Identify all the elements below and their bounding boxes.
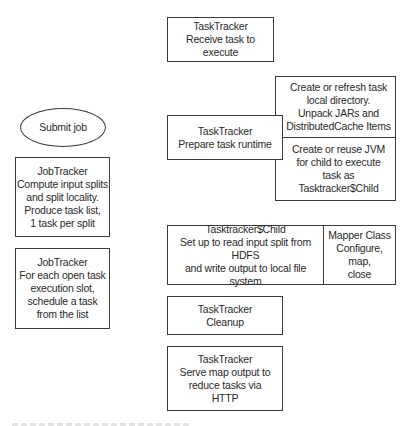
prepare-details-directory-cell: Create or refresh task local directory. … [276, 77, 395, 138]
tasktracker-prepare-text: TaskTracker Prepare task runtime [178, 125, 271, 151]
submit-job-label: Submit job [39, 121, 87, 134]
prepare-details-jvm-text: Create or reuse JVM for child to execute… [292, 143, 385, 195]
tasktracker-cleanup-node: TaskTracker Cleanup [167, 296, 283, 335]
tasktracker-child-main-cell: Tasktracker$Child Set up to read input s… [168, 226, 324, 284]
prepare-details-directory-text: Create or refresh task local directory. … [286, 81, 391, 133]
mapper-class-cell: Mapper Class Configure, map, close [324, 226, 395, 284]
submit-job-node: Submit job [20, 108, 106, 147]
tasktracker-serve-text: TaskTracker Serve map output to reduce t… [180, 353, 271, 405]
tasktracker-child-node: Tasktracker$Child Set up to read input s… [167, 225, 396, 285]
tasktracker-prepare-node: TaskTracker Prepare task runtime [167, 115, 283, 160]
jobtracker-compute-splits-text: JobTracker Compute input splits and spli… [17, 165, 108, 230]
tasktracker-cleanup-text: TaskTracker Cleanup [198, 303, 253, 329]
tasktracker-receive-text: TaskTracker Receive task to execute [168, 20, 273, 59]
tasktracker-child-main-text: Tasktracker$Child Set up to read input s… [168, 223, 323, 288]
jobtracker-schedule-node: JobTracker For each open task execution … [15, 248, 110, 329]
tasktracker-receive-node: TaskTracker Receive task to execute [167, 17, 274, 62]
cropped-caption [12, 419, 212, 426]
tasktracker-serve-node: TaskTracker Serve map output to reduce t… [167, 346, 283, 411]
prepare-details-node: Create or refresh task local directory. … [275, 76, 396, 201]
prepare-details-jvm-cell: Create or reuse JVM for child to execute… [276, 138, 395, 200]
jobtracker-compute-splits-node: JobTracker Compute input splits and spli… [15, 157, 110, 237]
mapper-class-text: Mapper Class Configure, map, close [328, 229, 390, 281]
jobtracker-schedule-text: JobTracker For each open task execution … [19, 256, 105, 321]
